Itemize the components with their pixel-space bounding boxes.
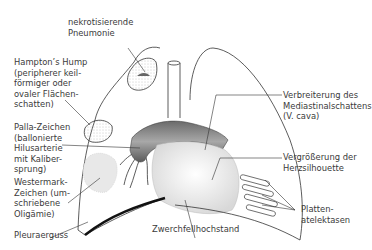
- heart-silhouette: [152, 142, 239, 214]
- label-zwerchfellhochstand: Zwerchfellhochstand: [152, 224, 239, 235]
- label-nekrotisierende-pneumonie: nekrotisierende Pneumonie: [68, 17, 133, 38]
- plate-atelectases: [240, 174, 278, 217]
- label-palla-zeichen: Palla-Zeichen (ballonierte Hilusarterie …: [14, 122, 70, 175]
- trachea-top: [168, 61, 180, 65]
- label-herzsilhouette: Vergrößerung der Herzsilhouette: [283, 152, 357, 173]
- label-hampton-hump: Hampton’s Hump (peripherer keil- förmige…: [14, 57, 87, 110]
- label-mediastinum: Verbreiterung des Mediastinalschattens (…: [283, 90, 372, 122]
- label-pleuraerguss: Pleuraerguss: [14, 230, 68, 241]
- trachea: [168, 63, 180, 118]
- label-westermark-zeichen: Westermark- Zeichen (um- schriebene Olig…: [14, 177, 70, 219]
- westermark-area: [83, 153, 117, 192]
- label-plattenatelektasen: Platten- atelektasen: [301, 204, 350, 225]
